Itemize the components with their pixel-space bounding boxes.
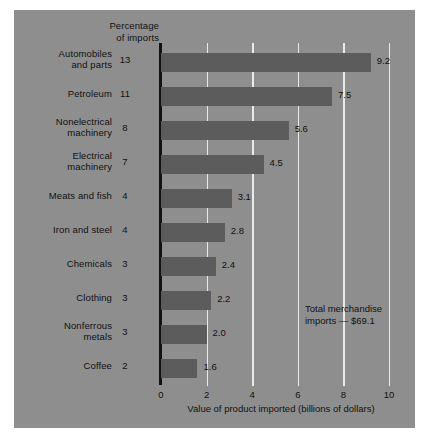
bar (161, 155, 264, 174)
category-label-line1: Coffee (18, 360, 112, 371)
bar (161, 325, 207, 344)
chart-figure: Percentage of imports Automobilesand par… (14, 10, 415, 428)
x-tick-label-6: 6 (286, 389, 310, 400)
category-label-line2: and parts (18, 59, 112, 70)
x-tick-label-4: 4 (240, 389, 264, 400)
x-tick-label-8: 8 (331, 389, 355, 400)
category-label: Iron and steel (18, 224, 112, 235)
annotation-line2: imports — $69.1 (305, 315, 382, 327)
bar (161, 53, 371, 72)
bar-value-label: 9.2 (377, 55, 390, 66)
percentage-value: 11 (114, 88, 136, 99)
bar-value-label: 2.2 (217, 293, 230, 304)
bar-value-label: 2.4 (222, 259, 235, 270)
percentage-value: 8 (114, 122, 136, 133)
category-label: Automobilesand parts (18, 48, 112, 71)
category-label-line1: Meats and fish (18, 190, 112, 201)
bar-value-label: 1.6 (203, 361, 216, 372)
bar-row: Nonelectricalmachinery85.6 (14, 113, 415, 147)
x-tick-label-10: 10 (377, 389, 401, 400)
category-label-line1: Automobiles (18, 48, 112, 59)
x-axis-title: Value of product imported (billions of d… (159, 403, 403, 414)
percentage-value: 7 (114, 156, 136, 167)
bar (161, 359, 197, 378)
annotation-line1: Total merchandise (305, 303, 382, 315)
category-label-line1: Clothing (18, 292, 112, 303)
category-label: Electricalmachinery (18, 150, 112, 173)
total-imports-annotation: Total merchandise imports — $69.1 (305, 303, 382, 326)
category-label: Petroleum (18, 88, 112, 99)
bar-row: Meats and fish43.1 (14, 181, 415, 215)
percentage-value: 3 (114, 258, 136, 269)
category-label: Meats and fish (18, 190, 112, 201)
category-label-line1: Electrical (18, 150, 112, 161)
bar-row: Electricalmachinery74.5 (14, 147, 415, 181)
bar (161, 291, 211, 310)
category-label: Chemicals (18, 258, 112, 269)
category-label-line2: machinery (18, 161, 112, 172)
percentage-value: 4 (114, 190, 136, 201)
bar (161, 87, 332, 106)
bar (161, 257, 216, 276)
category-label: Clothing (18, 292, 112, 303)
plot-area: Automobilesand parts139.2Petroleum117.5N… (14, 10, 415, 428)
bar-row: Chemicals32.4 (14, 249, 415, 283)
bar-row: Iron and steel42.8 (14, 215, 415, 249)
category-label: Nonelectricalmachinery (18, 116, 112, 139)
category-label-line1: Iron and steel (18, 224, 112, 235)
category-label-line2: machinery (18, 127, 112, 138)
bar (161, 121, 289, 140)
category-label-line1: Petroleum (18, 88, 112, 99)
bar-value-label: 7.5 (338, 89, 351, 100)
x-tick-label-2: 2 (195, 389, 219, 400)
bar-row: Petroleum117.5 (14, 79, 415, 113)
bar-value-label: 2.0 (213, 327, 226, 338)
bar-value-label: 3.1 (238, 191, 251, 202)
bar (161, 223, 225, 242)
category-label-line2: metals (18, 331, 112, 342)
bar-value-label: 2.8 (231, 225, 244, 236)
bar-row: Coffee21.6 (14, 351, 415, 385)
percentage-value: 2 (114, 360, 136, 371)
category-label-line1: Nonferrous (18, 320, 112, 331)
bar (161, 189, 232, 208)
category-label-line1: Chemicals (18, 258, 112, 269)
percentage-value: 3 (114, 292, 136, 303)
bar-value-label: 4.5 (270, 157, 283, 168)
category-label: Coffee (18, 360, 112, 371)
percentage-value: 3 (114, 326, 136, 337)
bar-row: Automobilesand parts139.2 (14, 45, 415, 79)
percentage-value: 4 (114, 224, 136, 235)
x-tick-label-0: 0 (149, 389, 173, 400)
percentage-value: 13 (114, 54, 136, 65)
bar-value-label: 5.6 (295, 123, 308, 134)
category-label-line1: Nonelectrical (18, 116, 112, 127)
category-label: Nonferrousmetals (18, 320, 112, 343)
